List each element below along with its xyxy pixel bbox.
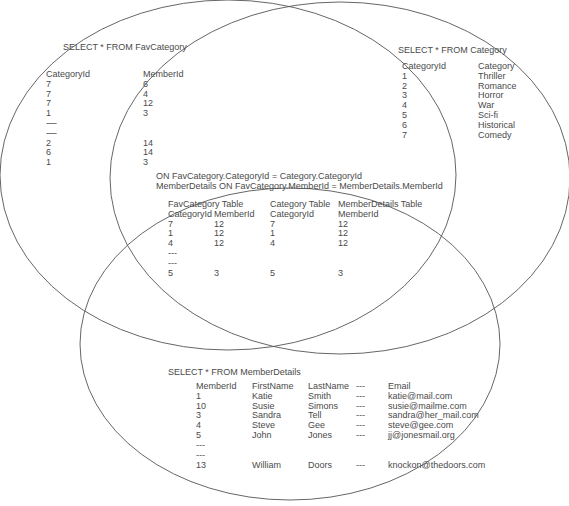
header-categoryid: CategoryId: [46, 70, 143, 80]
join-condition-2: MemberDetails ON FavCategory.MemberId = …: [156, 182, 443, 192]
join-table: FavCategory Table Category Table MemberD…: [168, 200, 422, 278]
table-row: 4War: [402, 101, 517, 111]
ellipsis-row: ---: [168, 259, 422, 269]
ellipsis-row: ---: [168, 249, 422, 259]
table-header: CategoryId MemberId: [46, 70, 184, 80]
ellipsis-row: -----: [46, 129, 184, 139]
table-row: 3Horror: [402, 91, 517, 101]
memberdetails-table: MemberId FirstName LastName --- Email 1K…: [196, 382, 485, 471]
ellipsis-row: ---: [196, 451, 485, 461]
table-row: 412412: [168, 239, 422, 249]
header-categoryid: CategoryId: [402, 62, 478, 72]
header-memberid: MemberId: [143, 70, 184, 80]
table-row: 13: [46, 158, 184, 168]
favcategory-table: CategoryId MemberId 76 74 712 13 ----- -…: [46, 70, 184, 168]
table-row: 614: [46, 148, 184, 158]
table-row: 13WilliamDoors---knockon@thedoors.com: [196, 461, 485, 471]
ellipsis-row: ---: [196, 441, 485, 451]
table-header: CategoryId MemberId CategoryId MemberId: [168, 210, 422, 220]
table-row: 5JohnJones---jj@jonesmail.org: [196, 431, 485, 441]
table-row: 112112: [168, 229, 422, 239]
table-row: 76: [46, 80, 184, 90]
favcategory-query: SELECT * FROM FavCategory: [63, 43, 187, 53]
table-row: 13: [46, 109, 184, 119]
category-query: SELECT * FROM Category: [398, 46, 507, 56]
table-row: 5353: [168, 269, 422, 279]
table-row: 7Comedy: [402, 131, 517, 141]
ellipsis-row: -----: [46, 119, 184, 129]
table-row: 712712: [168, 220, 422, 230]
table-row: 712: [46, 99, 184, 109]
memberdetails-query: SELECT * FROM MemberDetails: [168, 368, 301, 378]
table-row: 74: [46, 90, 184, 100]
table-row: 214: [46, 139, 184, 149]
category-table: CategoryId Category 1Thriller 2Romance 3…: [402, 62, 517, 140]
